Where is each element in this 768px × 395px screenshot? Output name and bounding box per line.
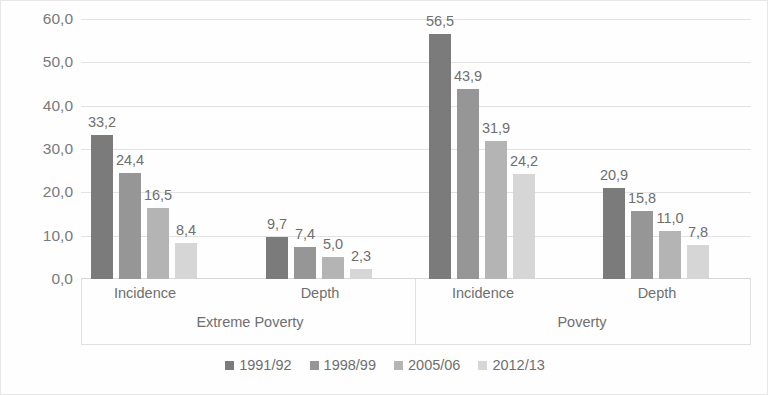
bar: [266, 237, 288, 279]
gridline: [81, 62, 751, 63]
legend-swatch-icon: [394, 361, 403, 370]
category-label: Incidence: [114, 285, 176, 301]
bar-value-label: 5,0: [323, 236, 343, 252]
bar: [119, 173, 141, 279]
bar: [91, 135, 113, 279]
y-axis-tick-label: 60,0: [1, 10, 73, 28]
legend-label: 1998/99: [324, 357, 376, 373]
y-axis-tick-label: 10,0: [1, 227, 73, 245]
legend-label: 2012/13: [492, 357, 544, 373]
bar: [659, 231, 681, 279]
bar: [513, 174, 535, 279]
bar-value-label: 43,9: [454, 68, 482, 84]
legend-swatch-icon: [225, 361, 234, 370]
bar-value-label: 24,2: [510, 153, 538, 169]
legend-item[interactable]: 1998/99: [310, 357, 376, 373]
bar: [350, 269, 372, 279]
bar-value-label: 56,5: [426, 13, 454, 29]
bar: [429, 34, 451, 279]
plot-area: 33,224,416,58,49,77,45,02,356,543,931,92…: [81, 19, 751, 279]
y-axis-tick-label: 40,0: [1, 97, 73, 115]
bar: [631, 211, 653, 279]
bar-value-label: 33,2: [88, 114, 116, 130]
bar: [457, 89, 479, 279]
legend-swatch-icon: [478, 361, 487, 370]
category-label: Incidence: [452, 285, 514, 301]
bar-value-label: 7,4: [295, 226, 315, 242]
bar-chart: 0,010,020,030,040,050,060,0 33,224,416,5…: [0, 0, 768, 395]
y-axis-tick-label: 0,0: [1, 270, 73, 288]
y-axis-tick-label: 50,0: [1, 53, 73, 71]
category-axis-band: IncidenceDepthIncidenceDepthExtreme Pove…: [81, 279, 751, 345]
category-label: Depth: [638, 285, 677, 301]
gridline: [81, 106, 751, 107]
bar: [687, 245, 709, 279]
category-label: Depth: [301, 285, 340, 301]
legend-item[interactable]: 2012/13: [478, 357, 544, 373]
bar-value-label: 9,7: [267, 216, 287, 232]
legend-swatch-icon: [310, 361, 319, 370]
bar-value-label: 31,9: [482, 120, 510, 136]
bar-value-label: 8,4: [176, 222, 196, 238]
bar-value-label: 15,8: [628, 190, 656, 206]
bar-value-label: 24,4: [116, 152, 144, 168]
bar: [175, 243, 197, 279]
panel-group-label: Extreme Poverty: [196, 314, 303, 330]
chart-legend: 1991/921998/992005/062012/13: [1, 357, 768, 373]
y-axis-tick-label: 20,0: [1, 183, 73, 201]
bar-value-label: 16,5: [144, 187, 172, 203]
bar: [147, 208, 169, 280]
panel-group-label: Poverty: [557, 314, 606, 330]
gridline: [81, 149, 751, 150]
legend-item[interactable]: 2005/06: [394, 357, 460, 373]
bar: [603, 188, 625, 279]
legend-label: 1991/92: [239, 357, 291, 373]
y-axis-tick-label: 30,0: [1, 140, 73, 158]
bar: [485, 141, 507, 279]
panel-divider: [415, 279, 416, 344]
bar-value-label: 20,9: [600, 167, 628, 183]
bar-value-label: 11,0: [656, 210, 683, 226]
bar: [322, 257, 344, 279]
bar-value-label: 2,3: [351, 248, 371, 264]
gridline: [81, 19, 751, 20]
legend-label: 2005/06: [408, 357, 460, 373]
legend-item[interactable]: 1991/92: [225, 357, 291, 373]
bar-value-label: 7,8: [688, 224, 708, 240]
bar: [294, 247, 316, 279]
